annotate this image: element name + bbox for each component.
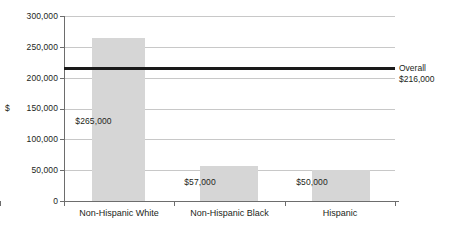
y-tick-label-250000: 250,000	[27, 43, 58, 52]
x-tick-mark-start	[64, 201, 65, 206]
plot-area	[64, 16, 395, 201]
x-category-label-non-hispanic-white: Non-Hispanic White	[64, 208, 174, 219]
overall-legend-label: Overall	[399, 63, 434, 74]
bar-value-label-non-hispanic-white: $265,000	[67, 117, 120, 126]
y-tick-label-300000: 300,000	[27, 12, 58, 21]
x-axis-line	[60, 201, 399, 202]
x-tick-mark-2b	[285, 201, 286, 206]
overall-legend-value: $216,000	[399, 74, 434, 85]
gridline-300000	[64, 16, 395, 17]
x-tick-mark-end	[395, 201, 396, 206]
x-tick-mark-2	[0, 201, 1, 206]
bar-value-label-non-hispanic-black: $57,000	[171, 178, 229, 187]
x-tick-mark-1	[174, 201, 175, 206]
overall-reference-line	[64, 67, 395, 70]
bar-chart: $ 300,000 250,000 200,000 150,000 100,00…	[0, 0, 449, 230]
bar-value-label-hispanic: $50,000	[283, 178, 341, 187]
y-axis-line	[64, 16, 65, 202]
y-tick-label-200000: 200,000	[27, 74, 58, 83]
x-category-label-non-hispanic-black: Non-Hispanic Black	[174, 208, 285, 219]
overall-legend: Overall $216,000	[399, 63, 434, 85]
y-tick-label-50000: 50,000	[31, 166, 58, 175]
y-tick-label-100000: 100,000	[27, 135, 58, 144]
y-tick-label-0: 0	[53, 197, 58, 206]
x-category-label-hispanic: Hispanic	[285, 208, 395, 219]
y-axis-tick-labels: 300,000 250,000 200,000 150,000 100,000 …	[8, 0, 58, 230]
y-tick-label-150000: 150,000	[27, 104, 58, 113]
